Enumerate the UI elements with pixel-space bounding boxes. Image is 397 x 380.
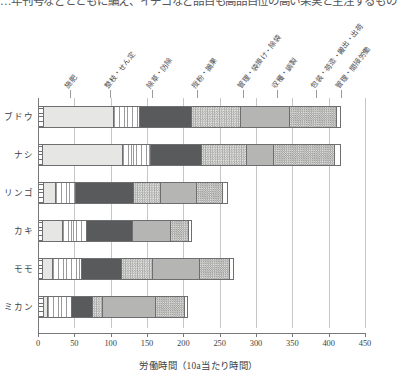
series-label-tick-3 [197, 90, 198, 98]
y-axis-line [38, 98, 39, 333]
bar-segment [62, 220, 86, 242]
x-tick-label-50: 50 [70, 339, 78, 349]
x-tick-label-200: 200 [177, 339, 190, 349]
bar-segment [199, 258, 229, 280]
gridline-200 [183, 98, 184, 328]
series-label-2: 除草・防除 [146, 57, 174, 90]
gridline-150 [147, 98, 148, 328]
crop-label-1: ナシ [14, 150, 34, 160]
bar-segment [43, 106, 113, 128]
bar-segment [334, 144, 341, 166]
gridline-300 [256, 98, 257, 328]
bar-segment [132, 220, 171, 242]
gridline-50 [74, 98, 75, 328]
series-legend-labels: 施肥整枝・せん定除草・防除授粉・摘果管理・袋掛け・除袋収穫・調製包装・荷造・搬出… [0, 12, 397, 98]
gridline-400 [329, 98, 330, 328]
bar-segment [81, 258, 121, 280]
x-tick-label-300: 300 [250, 339, 263, 349]
x-tick-300 [256, 333, 257, 337]
x-tick-0 [38, 333, 39, 337]
x-tick-400 [329, 333, 330, 337]
series-label-1: 整枝・せん定 [104, 51, 137, 90]
truncated-body-text: …年刊号などとともに編え、イチゴなど品目も高品目位の高い果実と主注するもの [0, 0, 397, 12]
x-tick-200 [183, 333, 184, 337]
bar-segment [86, 220, 132, 242]
bar-segment [150, 144, 201, 166]
bar-segment [188, 220, 192, 242]
series-label-tick-5 [277, 90, 278, 98]
gridline-450 [365, 98, 366, 328]
series-label-tick-1 [110, 90, 111, 98]
bar-segment [122, 144, 150, 166]
bar-segment [71, 296, 92, 318]
bar-segment [155, 296, 184, 318]
series-label-tick-6 [316, 90, 317, 98]
bar-segment [246, 144, 273, 166]
bar-segment [201, 144, 246, 166]
x-tick-label-150: 150 [141, 339, 154, 349]
bar-segment [47, 296, 70, 318]
x-tick-250 [220, 333, 221, 337]
crop-label-3: カキ [14, 226, 34, 236]
x-tick-label-350: 350 [286, 339, 299, 349]
bar-segment [42, 144, 122, 166]
x-tick-150 [147, 333, 148, 337]
crop-label-2: リンゴ [4, 188, 34, 198]
bar-segment [139, 106, 191, 128]
gridline-250 [220, 98, 221, 328]
bar-segment [42, 258, 51, 280]
x-tick-label-100: 100 [104, 339, 117, 349]
crop-axis-labels: ブドウナシリンゴカキモモミカン [0, 98, 34, 328]
bar-segment [184, 296, 188, 318]
plot-area [38, 98, 365, 328]
crop-label-5: ミカン [4, 302, 34, 312]
bar-segment [152, 258, 199, 280]
bar-segment [336, 106, 341, 128]
bar-segment [92, 296, 102, 318]
crop-label-4: モモ [14, 264, 34, 274]
series-label-0: 施肥 [64, 74, 79, 90]
series-label-3: 授粉・摘果 [191, 57, 219, 90]
x-tick-100 [111, 333, 112, 337]
bar-segment [196, 182, 221, 204]
bar-segment [75, 182, 133, 204]
bar-segment [222, 182, 228, 204]
bar-segment [52, 258, 81, 280]
bar-segment [42, 220, 62, 242]
bar-segment [191, 106, 240, 128]
bar-segment [170, 220, 187, 242]
x-tick-label-250: 250 [213, 339, 226, 349]
series-label-tick-4 [243, 90, 244, 98]
x-axis-line [38, 333, 365, 334]
x-tick-50 [74, 333, 75, 337]
gridline-350 [292, 98, 293, 328]
gridline-100 [111, 98, 112, 328]
bar-segment [55, 182, 75, 204]
crop-label-0: ブドウ [4, 112, 34, 122]
x-tick-350 [292, 333, 293, 337]
chart-page: …年刊号などとともに編え、イチゴなど品目も高品目位の高い果実と主注するもの 施肥… [0, 0, 397, 380]
x-axis-title: 労働時間（10a当たり時間） [0, 358, 397, 372]
series-label-tick-7 [341, 90, 342, 98]
bar-segment [289, 106, 336, 128]
x-tick-label-0: 0 [36, 339, 40, 349]
bar-segment [43, 182, 55, 204]
series-label-tick-2 [152, 90, 153, 98]
bar-segment [113, 106, 139, 128]
series-label-5: 収穫・調製 [271, 57, 299, 90]
series-label-tick-0 [70, 90, 71, 98]
bar-segment [160, 182, 196, 204]
x-tick-450 [365, 333, 366, 337]
bar-segment [102, 296, 155, 318]
x-tick-label-450: 450 [359, 339, 372, 349]
bar-segment [240, 106, 289, 128]
bar-segment [121, 258, 152, 280]
bar-segment [133, 182, 160, 204]
x-tick-label-400: 400 [322, 339, 335, 349]
bar-segment [229, 258, 234, 280]
bar-segment [273, 144, 334, 166]
